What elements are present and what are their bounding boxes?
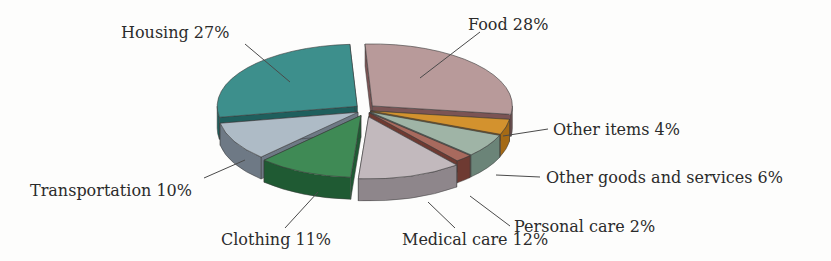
leader-line	[204, 160, 245, 178]
leader-line	[285, 192, 318, 228]
slice-label: Housing 27%	[121, 23, 229, 42]
pie-chart: Food 28%Other items 4%Other goods and se…	[0, 0, 831, 261]
slice-label: Food 28%	[468, 15, 548, 34]
slice-label: Medical care 12%	[402, 230, 548, 249]
slice-label: Other items 4%	[553, 120, 680, 139]
slice-housing	[217, 44, 357, 117]
leader-line	[428, 202, 455, 228]
slice-label: Other goods and services 6%	[546, 168, 783, 187]
slice-label: Transportation 10%	[30, 181, 192, 200]
slice-food	[365, 44, 512, 114]
leader-line	[470, 196, 510, 226]
leader-line	[496, 175, 540, 177]
slice-label: Clothing 11%	[221, 230, 331, 249]
